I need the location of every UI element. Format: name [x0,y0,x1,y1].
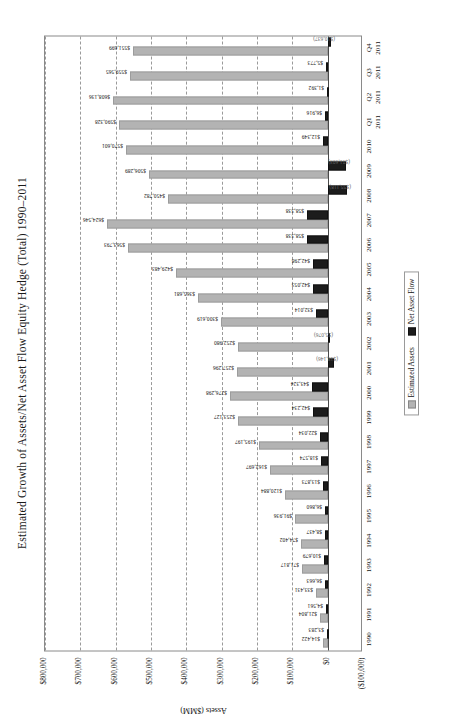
value-axis-tick: $300,000 [217,657,225,684]
bar-label-net-asset-flow: ($18,146) [316,355,338,361]
bar-label-estimated-assets: $563,793 [104,241,125,247]
bar-label-net-asset-flow: $42,053 [292,281,310,287]
bar-estimated-assets [259,441,328,450]
bar-estimated-assets [126,145,328,154]
bar-label-net-asset-flow: ($10,637) [313,35,335,41]
bar-label-net-asset-flow: $13,873 [302,478,320,484]
category-axis-tick: 2001 [365,361,374,375]
plot-frame: $14,422$3,283$21,804$4,561$33,431$6,663$… [44,35,362,651]
bar-label-estimated-assets: $253,127 [214,413,235,419]
bar-label-net-asset-flow: $18,574 [300,454,318,460]
bar-label-estimated-assets: $506,289 [125,167,146,173]
bar-label-net-asset-flow: $6,663 [307,577,322,583]
bar-net-asset-flow [326,604,328,613]
bar-label-estimated-assets: $570,601 [102,142,123,148]
bar-estimated-assets [119,120,328,129]
category-axis-tick: 1992 [365,582,374,596]
value-axis-tick: $700,000 [75,657,83,684]
bar-estimated-assets [316,588,328,597]
bar-net-asset-flow [321,456,328,465]
bar-label-estimated-assets: $257,296 [213,364,234,370]
bar-label-net-asset-flow: ($5,076) [314,331,333,337]
bar-estimated-assets [221,317,327,326]
chart-legend: Estimated Assets Net Asset Flow [404,271,419,415]
value-axis: $800,000$700,000$600,000$500,000$400,000… [44,651,362,725]
legend-item-estimated-assets: Estimated Assets [407,347,416,408]
bar-label-estimated-assets: $21,804 [299,610,317,616]
bar-estimated-assets [323,638,328,647]
bar-net-asset-flow [327,629,329,638]
legend-swatch-estimated-assets [408,400,416,408]
bar-label-net-asset-flow: ($55,118) [329,183,351,189]
category-axis: 1990199119921993199419951996199719981999… [362,35,402,651]
category-axis-tick: Q32011 [365,65,382,79]
bar-label-net-asset-flow: $4,561 [308,602,323,608]
bar-estimated-assets [320,613,328,622]
category-axis-tick: 2006 [365,237,374,251]
category-axis-tick: 2010 [365,139,374,153]
bar-label-net-asset-flow: $32,014 [295,306,313,312]
bar-net-asset-flow [325,580,327,589]
bar-net-asset-flow [326,62,328,71]
bar-estimated-assets [113,96,328,105]
chart-title: Estimated Growth of Assets/Net Asset Flo… [16,0,28,725]
bar-net-asset-flow [323,481,328,490]
category-axis-tick: Q42011 [365,40,382,54]
bar-label-estimated-assets: $91,936 [274,512,292,518]
category-axis-tick: 2005 [365,262,374,276]
bar-estimated-assets [238,342,327,351]
bar-label-estimated-assets: $624,546 [83,216,104,222]
bar-label-estimated-assets: $276,298 [206,389,227,395]
bar-net-asset-flow [307,210,328,219]
category-axis-tick: 2008 [365,188,374,202]
value-axis-tick: $0 [323,657,331,664]
category-axis-tick: Q22011 [365,90,382,104]
bar-label-estimated-assets: $551,699 [109,44,130,50]
value-axis-tick: $400,000 [181,657,189,684]
bar-label-estimated-assets: $365,681 [174,290,195,296]
rotated-chart-container: Estimated Growth of Assets/Net Asset Flo… [0,0,450,725]
value-axis-tick: $800,000 [40,657,48,684]
bar-net-asset-flow [320,432,328,441]
bar-label-net-asset-flow: $3,283 [308,626,323,632]
bar-label-net-asset-flow: $22,034 [299,429,317,435]
bar-estimated-assets [128,243,327,252]
chart-area: Estimated Growth of Assets/Net Asset Flo… [0,0,450,725]
bars-layer: $14,422$3,283$21,804$4,561$33,431$6,663$… [45,36,361,650]
category-axis-tick: 1995 [365,508,374,522]
category-axis-tick: 2003 [365,311,374,325]
bar-label-estimated-assets: $450,782 [144,192,165,198]
bar-label-net-asset-flow: $42,234 [292,404,310,410]
bar-label-estimated-assets: $300,619 [197,315,218,321]
value-axis-tick: $600,000 [111,657,119,684]
category-axis-tick: 1990 [365,632,374,646]
bar-estimated-assets [285,490,328,499]
legend-item-net-asset-flow: Net Asset Flow [407,278,416,335]
legend-label-estimated-assets: Estimated Assets [407,347,416,397]
category-axis-tick: 2004 [365,287,374,301]
bar-label-net-asset-flow: $8,437 [306,528,321,534]
bar-label-estimated-assets: $195,197 [235,438,256,444]
bar-net-asset-flow [323,136,327,145]
bar-net-asset-flow [325,530,328,539]
value-axis-tick: $500,000 [146,657,154,684]
bar-label-net-asset-flow: $42,298 [291,257,309,263]
bar-label-estimated-assets: $590,328 [95,118,116,124]
bar-estimated-assets [107,219,328,228]
bar-estimated-assets [176,268,328,277]
bar-label-net-asset-flow: $6,916 [307,109,322,115]
bar-estimated-assets [301,539,327,548]
bar-net-asset-flow [312,382,327,391]
legend-swatch-net-asset-flow [408,327,416,335]
bar-label-net-asset-flow: $1,392 [309,84,324,90]
bar-label-estimated-assets: $71,817 [281,561,299,567]
category-axis-tick: 1996 [365,484,374,498]
bar-label-net-asset-flow: ($51,603) [328,158,350,164]
bar-net-asset-flow [316,309,327,318]
value-axis-tick: $100,000 [287,657,295,684]
bar-estimated-assets [238,416,327,425]
bar-net-asset-flow [324,555,328,564]
bar-estimated-assets [198,293,327,302]
bar-net-asset-flow [313,407,328,416]
bar-label-net-asset-flow: $58,338 [286,207,304,213]
